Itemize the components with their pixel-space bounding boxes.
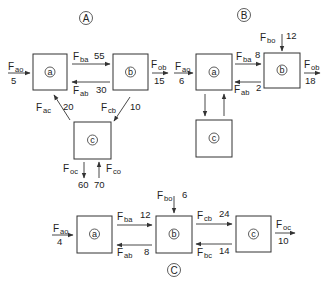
svg-text:55: 55 xyxy=(94,50,105,61)
svg-text:co: co xyxy=(113,167,121,176)
svg-text:cb: cb xyxy=(108,106,116,115)
svg-text:10: 10 xyxy=(278,235,289,246)
node-a-box: a xyxy=(77,216,112,253)
svg-text:ba: ba xyxy=(124,215,133,224)
compartment-flow-diagram: A a b c F ao 5 F ba 55 xyxy=(0,0,324,283)
svg-text:F: F xyxy=(101,102,107,113)
node-b-box: b xyxy=(264,53,300,88)
svg-text:ob: ob xyxy=(158,63,166,72)
flow-cb: F cb 24 xyxy=(196,208,232,224)
panel-b: B a b c F ao 6 F ba 8 xyxy=(174,9,320,158)
svg-text:F: F xyxy=(117,247,123,258)
svg-text:F: F xyxy=(73,51,79,62)
svg-text:bc: bc xyxy=(204,251,212,260)
svg-text:ba: ba xyxy=(80,55,89,64)
node-a-box: a xyxy=(196,54,232,90)
svg-text:F: F xyxy=(8,61,14,72)
svg-text:F: F xyxy=(106,163,112,174)
flow-oc: F oc 60 xyxy=(63,162,89,190)
node-a-box: a xyxy=(33,54,67,90)
svg-text:60: 60 xyxy=(78,179,89,190)
svg-text:c: c xyxy=(90,135,95,145)
svg-text:A: A xyxy=(83,13,90,24)
svg-text:24: 24 xyxy=(219,208,230,219)
svg-text:ab: ab xyxy=(80,89,88,98)
flow-ba: F ba 55 xyxy=(72,50,110,64)
svg-text:C: C xyxy=(170,265,177,276)
panel-a-label: A xyxy=(80,12,93,25)
node-c-box: c xyxy=(74,122,111,159)
flow-ba: F ba 8 xyxy=(235,49,261,64)
flow-ob: F ob 18 xyxy=(304,59,320,86)
svg-text:F: F xyxy=(175,61,181,72)
flow-ab: F ab 8 xyxy=(117,245,152,260)
svg-text:5: 5 xyxy=(11,75,16,86)
flow-oc: F oc 10 xyxy=(275,219,295,246)
svg-text:6: 6 xyxy=(182,189,187,200)
flow-ao: F ao 4 xyxy=(52,223,73,247)
svg-text:b: b xyxy=(128,67,133,77)
flow-bo: F bo 12 xyxy=(260,30,297,51)
svg-text:8: 8 xyxy=(255,49,260,60)
svg-text:ob: ob xyxy=(311,63,319,72)
flow-ao: F ao 5 xyxy=(8,61,30,86)
svg-text:14: 14 xyxy=(219,245,230,256)
svg-text:F: F xyxy=(117,211,123,222)
svg-text:F: F xyxy=(151,59,157,70)
svg-text:F: F xyxy=(236,51,242,62)
svg-text:F: F xyxy=(234,84,240,95)
svg-text:4: 4 xyxy=(57,236,62,247)
svg-text:b: b xyxy=(171,229,176,239)
svg-text:oc: oc xyxy=(283,223,291,232)
svg-text:12: 12 xyxy=(286,30,297,41)
svg-text:bo: bo xyxy=(267,36,275,45)
flow-ac: F ac 20 xyxy=(36,95,74,120)
panel-c-label: C xyxy=(168,264,181,277)
svg-text:bo: bo xyxy=(164,194,172,203)
svg-text:F: F xyxy=(73,85,79,96)
svg-text:ao: ao xyxy=(182,65,190,74)
flow-ba: F ba 12 xyxy=(117,209,152,225)
svg-text:a: a xyxy=(47,67,52,77)
flow-ob: F ob 15 xyxy=(151,59,168,86)
svg-text:F: F xyxy=(276,219,282,230)
svg-text:ao: ao xyxy=(60,227,68,236)
svg-text:F: F xyxy=(36,102,42,113)
svg-text:F: F xyxy=(260,32,266,43)
svg-text:c: c xyxy=(251,229,256,239)
flow-bc: F bc 14 xyxy=(196,244,232,260)
svg-text:2: 2 xyxy=(256,82,261,93)
flow-bo: F bo 6 xyxy=(157,189,187,213)
svg-text:ba: ba xyxy=(243,55,252,64)
svg-text:a: a xyxy=(211,67,216,77)
svg-text:F: F xyxy=(304,59,310,70)
flow-ao: F ao 6 xyxy=(174,61,193,86)
flow-co: F co 70 xyxy=(94,162,121,190)
panel-c: C a b c F ao 4 F ba 12 xyxy=(52,189,295,277)
svg-text:ao: ao xyxy=(15,65,23,74)
svg-text:6: 6 xyxy=(179,75,184,86)
svg-text:30: 30 xyxy=(96,84,107,95)
arrow-diagonal-icon xyxy=(114,97,130,121)
svg-text:18: 18 xyxy=(305,75,316,86)
svg-text:F: F xyxy=(197,210,203,221)
svg-text:ac: ac xyxy=(43,106,51,115)
panel-a: A a b c F ao 5 F ba 55 xyxy=(8,12,168,191)
panel-b-label: B xyxy=(238,9,251,22)
svg-text:F: F xyxy=(157,190,163,201)
node-b-box: b xyxy=(156,216,192,253)
flow-cb: F cb 10 xyxy=(101,97,141,121)
flow-ab: F ab 2 xyxy=(234,82,261,97)
node-c-box: c xyxy=(236,216,271,252)
svg-text:F: F xyxy=(53,223,59,234)
node-b-box: b xyxy=(113,54,148,90)
node-c-box: c xyxy=(196,120,232,157)
flow-ab: F ab 30 xyxy=(72,82,110,98)
svg-text:B: B xyxy=(241,10,248,21)
svg-text:a: a xyxy=(92,229,97,239)
svg-text:F: F xyxy=(197,247,203,258)
svg-text:ab: ab xyxy=(124,251,132,260)
svg-text:ab: ab xyxy=(241,88,249,97)
svg-text:15: 15 xyxy=(154,75,165,86)
svg-text:oc: oc xyxy=(70,167,78,176)
